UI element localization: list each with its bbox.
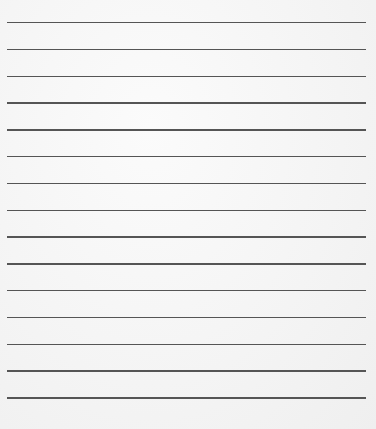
ruled-line [7,263,366,264]
ruled-line [7,22,366,23]
ruled-line [7,236,366,237]
ruled-line [7,210,366,211]
ruled-line [7,49,366,50]
ruled-line [7,344,366,345]
ruled-line [7,183,366,184]
ruled-line [7,317,366,318]
ruled-line [7,397,366,398]
ruled-line [7,129,366,130]
ruled-line [7,370,366,371]
ruled-line [7,156,366,157]
ruled-line [7,102,366,103]
lined-paper-sheet [0,0,376,429]
ruled-line [7,290,366,291]
ruled-line [7,76,366,77]
